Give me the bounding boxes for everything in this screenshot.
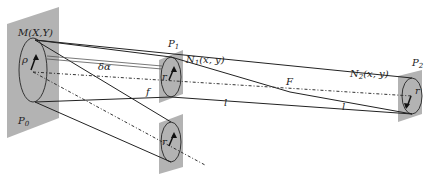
diagram-canvas: M(X,Y) P0 ρ δα f P1 N1(x, y) r r l F l N… [0, 0, 427, 183]
optical-axis [33, 72, 412, 165]
label-n1: N1(x, y) [185, 54, 225, 67]
label-rho: ρ [21, 54, 28, 65]
label-p1: P1 [167, 38, 179, 51]
label-f-point: F [285, 76, 294, 87]
label-f: f [145, 86, 152, 97]
label-n2: N2(x, y) [349, 68, 389, 81]
label-p2: P2 [411, 57, 424, 70]
label-m: M(X,Y) [17, 27, 53, 38]
label-delta-alpha: δα [98, 61, 111, 72]
label-l1: l [224, 97, 227, 108]
label-l2: l [342, 101, 345, 112]
